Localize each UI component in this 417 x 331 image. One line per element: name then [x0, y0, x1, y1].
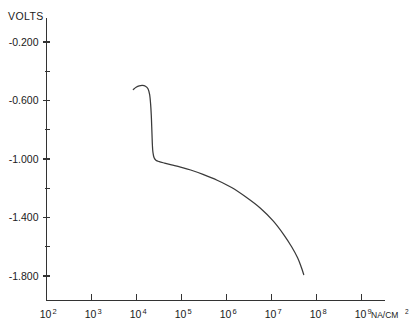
x-tick-label: 108: [310, 307, 327, 321]
svg-text:3: 3: [98, 307, 102, 316]
y-tick-label: -1.400: [9, 211, 39, 223]
svg-text:7: 7: [278, 307, 282, 316]
x-tick-label: 106: [220, 307, 237, 321]
svg-text:8: 8: [323, 307, 327, 316]
svg-text:10: 10: [40, 308, 52, 320]
x-axis-tick-labels: 102103104105106107108109: [40, 307, 372, 321]
x-axis-unit-label: NA/CM 2: [371, 308, 409, 321]
svg-text:10: 10: [85, 308, 97, 320]
x-tick-label: 105: [175, 307, 192, 321]
x-tick-label: 102: [40, 307, 57, 321]
svg-text:4: 4: [143, 307, 147, 316]
svg-text:10: 10: [310, 308, 322, 320]
x-axis-group: 102103104105106107108109: [40, 294, 385, 320]
x-tick-label: 103: [85, 307, 102, 321]
y-axis-group: -0.200-0.600-1.000-1.400-1.800: [9, 18, 50, 301]
x-axis-ticks: [47, 294, 362, 301]
x-tick-label: 107: [265, 307, 282, 321]
svg-text:2: 2: [53, 307, 57, 316]
y-tick-label: -0.600: [9, 94, 39, 106]
chart-canvas: -0.200-0.600-1.000-1.400-1.800 102103104…: [0, 0, 417, 331]
x-axis-unit-superscript: 2: [405, 308, 409, 315]
y-tick-label: -1.000: [9, 153, 39, 165]
svg-text:5: 5: [188, 307, 192, 316]
y-axis-title: VOLTS: [8, 10, 44, 22]
x-axis-unit-text: NA/CM: [371, 310, 398, 320]
svg-text:10: 10: [355, 308, 367, 320]
y-tick-label: -0.200: [9, 36, 39, 48]
x-tick-label: 104: [130, 307, 147, 321]
x-tick-label: 109: [355, 307, 372, 321]
svg-text:10: 10: [265, 308, 277, 320]
svg-text:10: 10: [130, 308, 142, 320]
chart-container: -0.200-0.600-1.000-1.400-1.800 102103104…: [0, 0, 417, 331]
y-axis-tick-labels: -0.200-0.600-1.000-1.400-1.800: [9, 36, 39, 282]
svg-text:10: 10: [175, 308, 187, 320]
svg-text:10: 10: [220, 308, 232, 320]
data-curve-polarization: [133, 85, 303, 274]
svg-text:6: 6: [233, 307, 237, 316]
y-tick-label: -1.800: [9, 270, 39, 282]
